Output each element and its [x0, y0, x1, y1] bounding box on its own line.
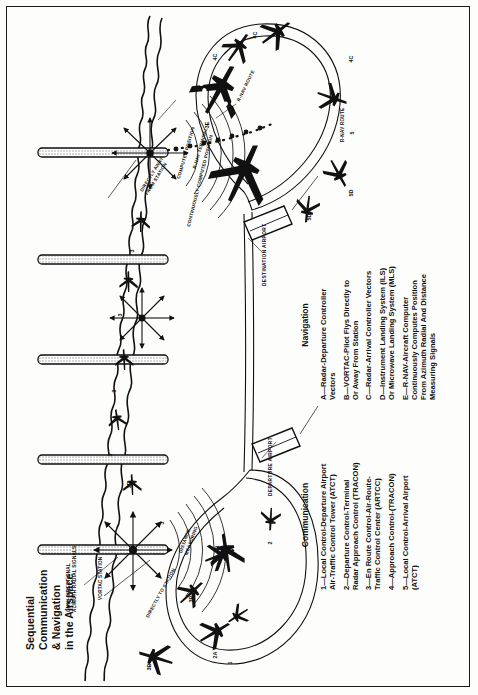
legend-navigation: Navigation A—Radar-Departure Controller … [300, 225, 442, 400]
legend-navigation-item-b: B—VORTAC-Pilot Flys Directly to Or Away … [342, 225, 360, 400]
legend-communication-heading: Communication [300, 440, 310, 590]
legend-communication-item-3: 3—En Route Control-Air-Route- Traffic Co… [364, 415, 382, 590]
marker-nav-3B-a: 3B [188, 596, 194, 603]
legend-navigation-item-e: E—R-NAV-Aircraft Computer Continuously C… [401, 225, 437, 400]
marker-comm-5: 5 [349, 132, 355, 135]
legend-navigation-item-a: A—Radar-Departure Controller Vectors [319, 225, 337, 400]
ground-ribbons [38, 148, 168, 554]
aircraft-1-takeoff [259, 507, 282, 532]
marker-comm-1: 1 [227, 662, 233, 665]
marker-comm-2: 2 [267, 542, 273, 545]
marker-nav-3E-b: 3E [204, 122, 210, 129]
marker-nav-4C-b: 4C [252, 32, 258, 39]
marker-nav-2A: 2A [212, 652, 218, 659]
marker-comm-3e: 3 [129, 250, 135, 253]
marker-comm-3d: 3 [117, 314, 123, 317]
title-line-3: & Navigation [50, 569, 63, 650]
terrain-coastline [85, 16, 162, 681]
marker-nav-3E-a: 3E [126, 482, 132, 489]
aircraft-2A [193, 612, 237, 654]
marker-nav-3B-c: 3B [146, 664, 152, 671]
diagram-page: Sequential Communication & Navigation in… [0, 0, 478, 695]
legend-navigation-item-c: C—Radar-Arrival Controller Vectors [364, 225, 373, 400]
legend-communication-item-5: 5—Local Control-Arrival Airport (ATCT) [401, 415, 419, 590]
marker-comm-3a: 3 [159, 522, 165, 525]
marker-comm-4: 4 [213, 84, 219, 87]
label-departure-airport: DEPARTURE AIRPORT [268, 437, 273, 496]
title-line-2: Communication [37, 569, 50, 650]
legend-navigation-heading: Navigation [300, 250, 310, 400]
marker-comm-3b: 3 [107, 454, 113, 457]
annotation-omni-directional: OMNI-DIRECTIONAL AZIMUTH RADIAL SIGNALS [66, 546, 78, 612]
marker-nav-4C-a: 4C [212, 54, 218, 61]
aircraft-4C-c [313, 80, 352, 117]
aircraft-3B-bottom [134, 637, 178, 678]
aircraft-3-enroute-c [119, 271, 138, 293]
aircraft-4C-b [254, 11, 299, 55]
legend-communication-item-4: 4—Approach Control-(TRACON) [387, 415, 396, 590]
label-destination-airport: DESTINATION AIRPORT [262, 224, 267, 287]
aircraft-3-enroute-d [131, 210, 151, 232]
marker-nav-4C-c: 4C [348, 56, 354, 63]
marker-nav-5D-b: 5D [306, 214, 312, 221]
marker-nav-3B-b: 3B [214, 546, 220, 553]
annotation-vortac-station: VORTAC STATION [98, 557, 103, 600]
legend-navigation-item-d: D—Instrument Landing System (ILS) Or Mic… [378, 225, 396, 400]
legend-communication-item-1: 1—Local Control-Departure Airport Air-Tr… [319, 415, 337, 590]
aircraft-5D-a [320, 155, 357, 193]
marker-nav-5D-a: 5D [348, 190, 354, 197]
title-line-1: Sequential [24, 569, 37, 650]
annotation-rnav-route-right: R-NAV ROUTE [340, 108, 345, 142]
legend-communication: Communication 1—Local Control-Departure … [300, 415, 423, 590]
legend-communication-item-2: 2—Departure Control-Terminal Radar Appro… [342, 415, 360, 590]
marker-comm-3c: 3 [111, 390, 117, 393]
